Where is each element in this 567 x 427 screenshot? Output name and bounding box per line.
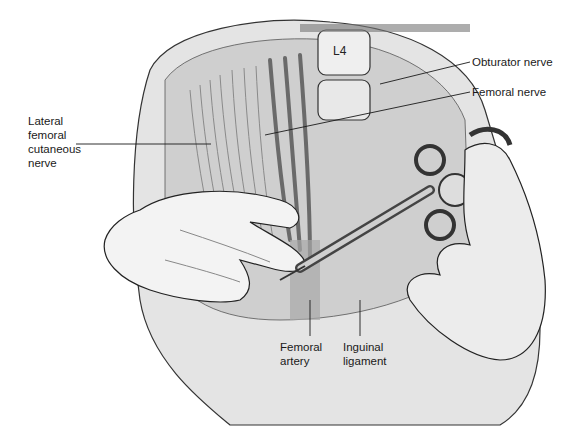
label-femoral-nerve: Femoral nerve — [472, 85, 546, 99]
svg-text:L4: L4 — [333, 44, 347, 58]
label-obturator-nerve: Obturator nerve — [472, 55, 553, 69]
label-lateral-femoral-cutaneous-nerve: Lateral femoral cutaneous nerve — [28, 114, 81, 170]
label-inguinal-ligament: Inguinal ligament — [343, 340, 386, 368]
label-femoral-artery: Femoral artery — [280, 340, 322, 368]
